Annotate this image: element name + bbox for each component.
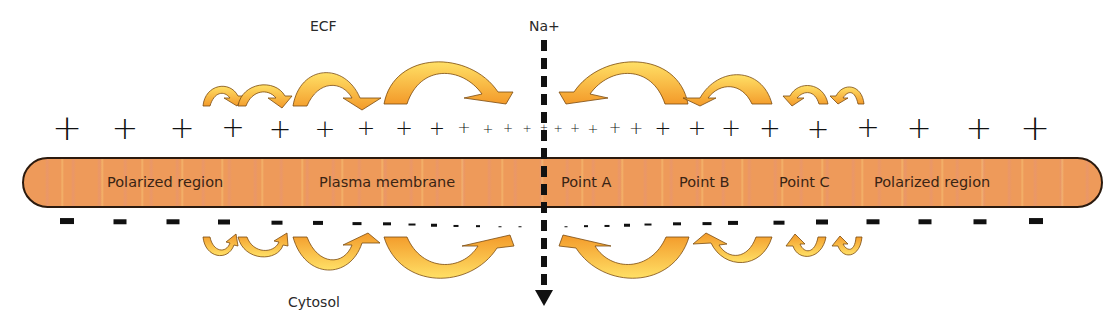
ecf-arrow-left-4 xyxy=(384,62,513,104)
negative-charge xyxy=(919,219,932,224)
ecf-arrow-left-3 xyxy=(293,73,381,110)
negative-charge xyxy=(476,225,480,227)
membrane-label-point-a: Point A xyxy=(561,174,612,190)
positive-charge: + xyxy=(269,115,292,142)
membrane-label-polarized-right: Polarized region xyxy=(874,174,990,190)
negative-charge xyxy=(454,224,459,226)
ecf-arrow-left-1 xyxy=(203,86,244,106)
membrane-label-plasma-membrane: Plasma membrane xyxy=(319,174,455,190)
negative-charge xyxy=(272,220,283,225)
membrane-label-point-c: Point C xyxy=(779,174,830,190)
negative-charge xyxy=(624,224,630,227)
positive-charge: + xyxy=(655,118,672,138)
cytosol-arrow-right-3 xyxy=(786,234,826,256)
positive-charge: + xyxy=(429,119,445,138)
positive-charge: + xyxy=(721,116,741,140)
positive-charge: + xyxy=(906,113,931,143)
positive-charge: + xyxy=(570,122,580,134)
negative-charge xyxy=(519,226,522,228)
negative-charge xyxy=(673,222,681,225)
ecf-arrow-left-2 xyxy=(238,85,292,108)
positive-charge: + xyxy=(629,120,643,137)
positive-charge: + xyxy=(1020,110,1050,146)
positive-charge: + xyxy=(856,114,879,142)
ecf-arrow-right-1 xyxy=(559,62,688,104)
negative-charge xyxy=(60,218,74,224)
cytosol-arrow-left-4 xyxy=(384,235,514,278)
positive-charge: + xyxy=(112,112,139,144)
positive-charge: + xyxy=(540,123,548,133)
membrane-label-polarized-left: Polarized region xyxy=(107,174,223,190)
cytosol-arrow-left-3 xyxy=(293,233,380,270)
cytosol-arrow-left-2 xyxy=(238,233,288,257)
positive-charge: + xyxy=(169,113,194,143)
negative-charge xyxy=(409,223,416,226)
positive-charge: + xyxy=(395,118,413,139)
negative-charge xyxy=(1029,218,1043,224)
positive-charge: + xyxy=(503,122,513,134)
positive-charge: + xyxy=(221,114,244,142)
positive-charge: + xyxy=(688,117,706,139)
cytosol-arrow-right-4 xyxy=(832,236,862,255)
positive-charge: + xyxy=(315,116,336,141)
positive-charge: + xyxy=(52,110,82,146)
negative-charge xyxy=(774,220,785,225)
positive-charge: + xyxy=(522,123,531,134)
cytosol-label: Cytosol xyxy=(288,294,340,310)
negative-charge xyxy=(703,222,712,226)
negative-charge xyxy=(974,219,987,224)
positive-charge: + xyxy=(588,122,599,135)
negative-charge xyxy=(167,219,180,224)
negative-charge xyxy=(218,219,230,224)
positive-charge: + xyxy=(609,121,622,136)
positive-charge: + xyxy=(457,120,470,136)
cytosol-arrow-right-2 xyxy=(693,233,772,263)
ecf-label: ECF xyxy=(310,18,337,34)
negative-charge xyxy=(728,221,738,225)
positive-charge: + xyxy=(759,115,781,141)
negative-charge xyxy=(584,225,588,227)
positive-charge: + xyxy=(807,115,830,142)
action-potential-diagram: ECF Na+ Cytosol ++++++++++++++++++++++++… xyxy=(0,0,1117,331)
negative-charge xyxy=(313,221,323,225)
negative-charge xyxy=(499,226,502,228)
negative-charge xyxy=(565,226,568,228)
negative-charge xyxy=(353,222,362,226)
positive-charge: + xyxy=(357,117,375,139)
ecf-arrow-right-2 xyxy=(683,75,772,106)
negative-charge xyxy=(383,222,391,225)
sodium-ion-label: Na+ xyxy=(529,18,560,34)
positive-charge: + xyxy=(553,123,562,134)
membrane-label-point-b: Point B xyxy=(679,174,730,190)
cytosol-arrow-right-1 xyxy=(559,235,689,278)
negative-charge xyxy=(816,219,828,224)
ecf-arrow-right-4 xyxy=(830,87,864,104)
negative-charge xyxy=(605,224,610,226)
negative-charge xyxy=(645,223,652,226)
negative-charge xyxy=(431,224,437,227)
positive-charge: + xyxy=(966,112,993,144)
positive-charge: + xyxy=(483,122,494,135)
negative-charge xyxy=(867,219,880,224)
cytosol-arrow-left-1 xyxy=(203,234,238,256)
negative-charge xyxy=(114,219,127,224)
ecf-arrow-right-3 xyxy=(783,86,828,106)
